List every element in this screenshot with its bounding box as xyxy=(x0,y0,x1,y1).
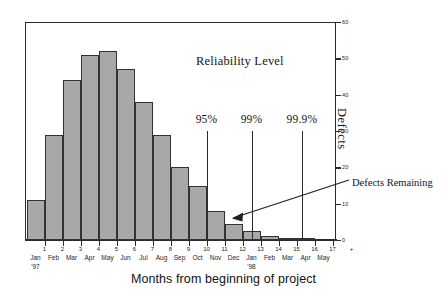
x-axis-tick-number: 8 xyxy=(169,246,172,252)
reliability-level-label: 95% xyxy=(196,113,218,125)
y-axis-tick xyxy=(336,95,341,96)
bar xyxy=(207,211,225,240)
bar xyxy=(99,51,117,240)
x-axis-month-label: Nov xyxy=(210,254,222,261)
x-axis-month-label: Jan xyxy=(30,254,40,261)
reliability-level-heading: Reliability Level xyxy=(196,54,284,69)
x-axis-month-label: Jun xyxy=(120,254,130,261)
bar xyxy=(279,238,297,240)
x-axis-month-label: May xyxy=(317,254,329,261)
x-axis-month-label: May xyxy=(101,254,113,261)
bar xyxy=(297,238,315,240)
x-axis-year-label: '97 xyxy=(31,263,39,270)
x-axis-tick-number: 12 xyxy=(239,246,246,252)
x-axis-tick-number: 6 xyxy=(133,246,136,252)
reliability-reference-line xyxy=(252,131,253,240)
bar xyxy=(189,186,207,241)
bar xyxy=(63,80,81,240)
bar xyxy=(153,135,171,240)
bars-group xyxy=(25,22,336,240)
x-axis-month-label: Sep xyxy=(174,254,186,261)
x-axis-overflow-marker: + xyxy=(350,246,354,252)
y-axis-tick xyxy=(336,167,341,168)
x-axis-tick-number: 9 xyxy=(187,246,190,252)
y-axis-tick-label: 10 xyxy=(342,201,348,207)
x-axis-year-label: '98 xyxy=(247,263,255,270)
x-axis-tick-number: 13 xyxy=(257,246,264,252)
y-axis-tick-label: 60 xyxy=(342,19,348,25)
x-axis-month-label: Jan xyxy=(246,254,256,261)
x-axis-month-label: Apr xyxy=(84,254,94,261)
y-axis-tick-label: 50 xyxy=(342,55,348,61)
bar xyxy=(135,102,153,240)
x-axis-month-label: Feb xyxy=(48,254,59,261)
reliability-level-label: 99.9% xyxy=(287,113,318,125)
x-axis-title: Months from beginning of project xyxy=(0,272,447,286)
y-axis-tick xyxy=(336,204,341,205)
x-axis-tick-number: 4 xyxy=(97,246,100,252)
y-axis-tick xyxy=(336,240,341,241)
y-axis-tick-label: 20 xyxy=(342,164,348,170)
x-axis-month-label: Mar xyxy=(66,254,77,261)
x-axis-month-label: Feb xyxy=(264,254,275,261)
reliability-level-label: 99% xyxy=(241,113,263,125)
y-axis-tick-label: 40 xyxy=(342,92,348,98)
reliability-reference-line xyxy=(302,131,303,240)
x-axis-tick-number: 17 xyxy=(329,246,336,252)
x-axis-tick-number: 10 xyxy=(203,246,210,252)
reliability-reference-line xyxy=(207,131,208,240)
bar xyxy=(27,200,45,240)
x-axis-tick-number: 11 xyxy=(221,246,227,252)
x-axis-month-label: Oct xyxy=(192,254,202,261)
bar xyxy=(261,236,279,240)
bar xyxy=(45,135,63,240)
x-axis-month-label: Apr xyxy=(300,254,310,261)
y-axis-tick xyxy=(336,58,341,59)
x-axis-tick-number: 14 xyxy=(275,246,282,252)
bar xyxy=(117,69,135,240)
bar xyxy=(225,224,243,240)
x-axis-tick-number: 2 xyxy=(61,246,64,252)
bar xyxy=(81,55,99,240)
x-axis-month-label: Aug xyxy=(156,254,168,261)
x-axis-month-label: Jul xyxy=(139,254,147,261)
y-axis-tick xyxy=(336,22,341,23)
defects-histogram-figure: 95%99%99.9% 6050403020100 12345678910111… xyxy=(0,0,447,297)
x-axis-month-label: Mar xyxy=(282,254,293,261)
x-axis-tick-number: 16 xyxy=(311,246,318,252)
x-axis-tick-number: 15 xyxy=(293,246,300,252)
y-axis-tick-label: 0 xyxy=(342,237,345,243)
x-axis-tick-number: 1 xyxy=(43,246,46,252)
bar xyxy=(171,167,189,240)
x-axis-month-label: Dec xyxy=(228,254,240,261)
x-axis-tick-number: 3 xyxy=(79,246,82,252)
y-axis-title: Defects xyxy=(334,108,349,150)
x-axis-tick-number: 5 xyxy=(115,246,118,252)
x-axis-tick-number: 7 xyxy=(151,246,154,252)
defects-remaining-label: Defects Remaining xyxy=(352,177,433,188)
